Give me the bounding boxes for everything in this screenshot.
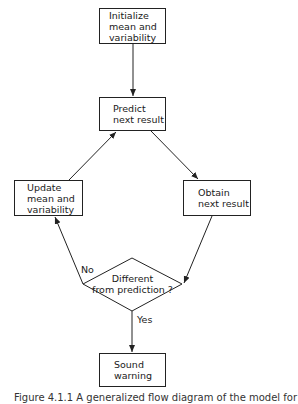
node-warning-line-1: Sound [114,359,165,370]
node-initialize-line-1: Initialize [109,10,165,21]
arrow-predict-to-obtain [151,131,198,179]
figure-caption: Figure 4.1.1 A generalized flow diagram … [14,392,297,404]
node-warning: Sound warning [99,353,166,387]
node-obtain: Obtain next result [183,180,251,216]
node-predict-line-1: Predict [113,103,165,114]
node-update: Update mean and variability [14,180,83,216]
node-decision: Different from prediction ? [83,273,182,295]
node-update-line-2: mean and [27,193,82,204]
node-obtain-line-2: next result [198,198,250,209]
node-decision-line-2: from prediction ? [83,284,182,295]
node-obtain-line-1: Obtain [198,187,250,198]
node-warning-line-2: warning [114,370,165,381]
arrow-obtain-to-decision [184,216,212,283]
node-initialize: Initialize mean and variability [99,8,166,44]
node-initialize-line-2: mean and [109,21,165,32]
node-predict: Predict next result [99,97,166,131]
node-update-line-3: variability [27,204,82,215]
node-decision-line-1: Different [83,273,182,284]
arrow-decision-to-update [55,217,83,284]
arrow-update-to-predict [69,132,116,180]
node-update-line-1: Update [27,182,82,193]
edge-label-no: No [81,264,94,275]
node-initialize-line-3: variability [109,32,165,43]
edge-label-yes: Yes [137,314,152,325]
node-predict-line-2: next result [113,114,165,125]
